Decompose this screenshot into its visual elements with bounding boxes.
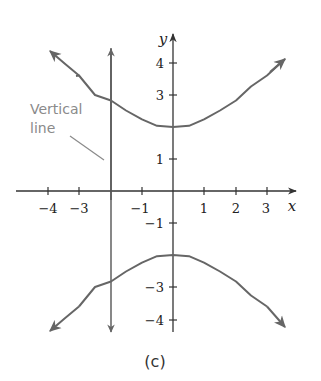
annotation-leader-line: [70, 136, 104, 160]
annotation-vertical-line-label-2: line: [30, 120, 55, 136]
y-tick-label: 4: [156, 56, 164, 71]
y-tick-label: −1: [145, 216, 164, 231]
x-tick-label: −4: [38, 201, 57, 216]
y-tick-label: −3: [145, 280, 164, 295]
x-tick-label: 3: [262, 201, 270, 216]
upper-branch-curve: [76, 59, 285, 127]
x-tick-label: 2: [232, 201, 240, 216]
y-tick-label: 3: [156, 88, 164, 103]
figure-caption: (c): [144, 352, 165, 371]
y-axis-label: y: [158, 30, 168, 48]
x-tick-label: 1: [200, 201, 208, 216]
x-axis-label: x: [288, 197, 297, 215]
x-tick-label: −1: [130, 201, 149, 216]
annotation-vertical-line-label: Vertical: [30, 101, 82, 117]
x-tick-label: −3: [69, 201, 88, 216]
y-tick-label: 1: [156, 152, 164, 167]
y-tick-label: −4: [145, 313, 164, 328]
hyperbola-graph: −4 −3 −1 1 2 3 x 4 3 1 −1 −3 −4 y Vertic…: [0, 0, 321, 381]
